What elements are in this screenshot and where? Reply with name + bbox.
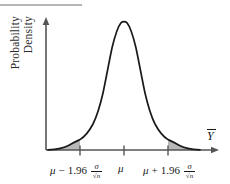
upper-operator: +	[151, 165, 159, 176]
upper-sigma-over-sqrt-n: σ √n	[184, 162, 195, 180]
lower-denominator-sqrt-n: √n	[92, 172, 101, 180]
tick-label-upper-bound: μ + 1.96 σ √n	[143, 162, 195, 180]
tick-label-center-mu: μ	[118, 163, 124, 174]
x-axis-label-ybar: Y	[207, 129, 216, 142]
upper-numerator-sigma: σ	[186, 162, 192, 171]
axis-lines	[43, 17, 219, 153]
tick-label-lower-bound: μ − 1.96 σ √n	[50, 162, 102, 180]
lower-numerator-sigma: σ	[93, 162, 99, 171]
distribution-plot	[0, 0, 230, 184]
mu-symbol: μ	[118, 162, 124, 174]
lower-coefficient: 1.96	[68, 165, 87, 176]
normal-distribution-figure: Probability Density μ μ − 1.96	[0, 0, 230, 184]
upper-mu-symbol: μ	[143, 165, 149, 176]
lower-mu-symbol: μ	[50, 165, 56, 176]
upper-coefficient: 1.96	[161, 165, 180, 176]
lower-sigma-over-sqrt-n: σ √n	[91, 162, 102, 180]
y-axis-arrowhead	[43, 17, 50, 25]
x-axis-arrowhead	[211, 147, 219, 154]
ybar-letter: Y	[207, 129, 214, 143]
lower-operator: −	[58, 165, 66, 176]
upper-denominator-sqrt-n: √n	[185, 172, 194, 180]
normal-curve	[48, 22, 200, 150]
